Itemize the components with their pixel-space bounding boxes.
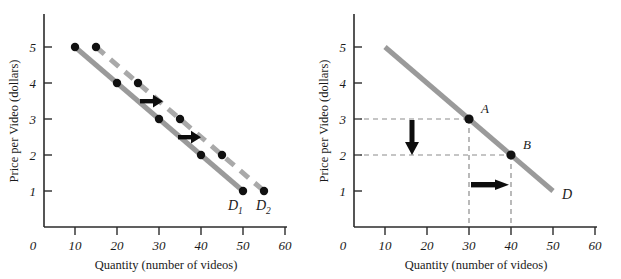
- x-ticklabel-0: 0: [30, 238, 37, 253]
- datapoint-d1-40-2: [197, 151, 205, 159]
- x-ticklabel-40: 40: [505, 238, 519, 253]
- datapoint-d2-15-5: [92, 43, 100, 51]
- price-fall-arrow-icon: [405, 120, 419, 155]
- x-ticklabel-10: 10: [69, 238, 83, 253]
- x-axis-title: Quantity (number of videos): [95, 258, 238, 272]
- y-ticklabel-2: 2: [340, 148, 347, 163]
- point-label-a: A: [480, 101, 489, 116]
- datapoint-d1-50-1: [239, 187, 247, 195]
- point-label-b: B: [523, 137, 531, 152]
- curve-label-d: D: [561, 187, 572, 202]
- y-ticklabel-3: 3: [339, 112, 347, 127]
- curve-label-d2-text: D: [255, 198, 266, 213]
- x-ticklabel-60: 60: [279, 238, 293, 253]
- x-ticklabel-30: 30: [462, 238, 477, 253]
- chart-panel-shift-in-demand: 5 4 3 2 1 0 10 20 30 40 50 60 Quantity (…: [0, 0, 310, 279]
- x-axis-title: Quantity (number of videos): [405, 258, 548, 272]
- curve-label-d1-sub: 1: [238, 206, 243, 216]
- y-ticklabel-2: 2: [30, 148, 37, 163]
- x-ticklabel-60: 60: [589, 238, 603, 253]
- right-chart-svg: 5 4 3 2 1 0 10 20 30 40 50 60 Quantity (…: [310, 0, 621, 279]
- y-ticklabel-5: 5: [340, 40, 347, 55]
- y-ticklabel-3: 3: [29, 112, 37, 127]
- datapoint-b-40-2: [506, 150, 515, 159]
- y-axis-title: Price per Video (dollars): [317, 60, 331, 183]
- x-ticklabel-20: 20: [421, 238, 435, 253]
- datapoint-d1-30-3: [155, 115, 163, 123]
- x-ticklabel-0: 0: [340, 238, 347, 253]
- datapoint-d1-10-5: [71, 43, 79, 51]
- x-ticklabel-50: 50: [237, 238, 251, 253]
- y-axis-title: Price per Video (dollars): [7, 60, 21, 183]
- curve-label-d2: D 2: [255, 198, 271, 216]
- datapoint-d2-45-2: [218, 151, 226, 159]
- curve-label-d2-sub: 2: [266, 206, 271, 216]
- x-ticklabel-10: 10: [379, 238, 393, 253]
- x-ticklabel-20: 20: [111, 238, 125, 253]
- datapoint-d2-35-3: [176, 115, 184, 123]
- y-ticklabel-1: 1: [340, 184, 347, 199]
- datapoint-d1-20-4: [113, 79, 121, 87]
- figure-container: 5 4 3 2 1 0 10 20 30 40 50 60 Quantity (…: [0, 0, 621, 279]
- left-chart-svg: 5 4 3 2 1 0 10 20 30 40 50 60 Quantity (…: [0, 0, 310, 279]
- datapoint-a-30-3: [464, 114, 473, 123]
- y-ticklabel-5: 5: [30, 40, 37, 55]
- curve-label-d1: D 1: [227, 198, 243, 216]
- datapoint-d2-25-4: [134, 79, 142, 87]
- shift-arrow-lower-icon: [178, 131, 201, 144]
- y-ticklabel-1: 1: [30, 184, 37, 199]
- curve-label-d1-text: D: [227, 198, 238, 213]
- x-ticklabel-50: 50: [547, 238, 561, 253]
- x-ticklabel-40: 40: [195, 238, 209, 253]
- y-ticklabel-4: 4: [340, 76, 347, 91]
- x-ticklabel-30: 30: [152, 238, 167, 253]
- quantity-rise-arrow-icon: [471, 180, 509, 190]
- datapoint-d2-55-1: [260, 187, 268, 195]
- y-ticklabel-4: 4: [30, 76, 37, 91]
- chart-panel-movement-along-demand: 5 4 3 2 1 0 10 20 30 40 50 60 Quantity (…: [310, 0, 621, 279]
